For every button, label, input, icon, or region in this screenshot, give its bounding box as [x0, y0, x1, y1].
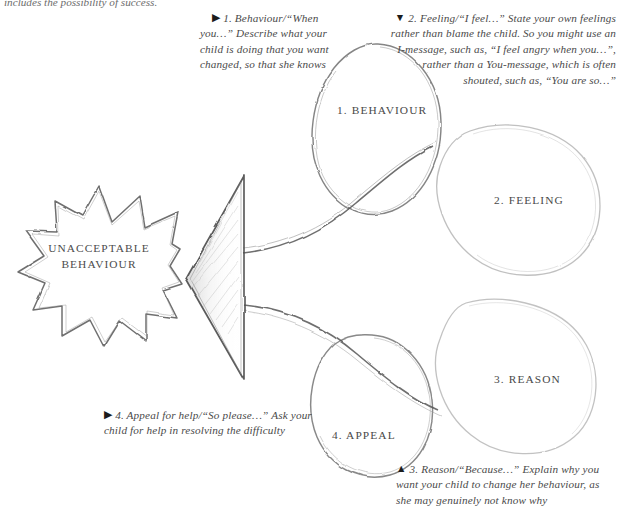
triangle-down-icon: ▼: [395, 10, 406, 25]
note-behaviour: ▶1. Behaviour/“When you…” Describe what …: [200, 11, 352, 73]
triangle-right-icon: ▶: [206, 10, 220, 25]
truncated-header-line: includes the possibility of success.: [4, 0, 234, 8]
core-label: UNACCEPTABLE BEHAVIOUR: [24, 240, 174, 272]
arrow-body-strokes: [243, 142, 441, 416]
note-reason: ▲3. Reason/“Because…” Explain why you wa…: [396, 462, 617, 508]
note-appeal: ▶4. Appeal for help/“So please…” Ask you…: [104, 408, 316, 439]
petal-label-appeal: 4. APPEAL: [332, 429, 396, 441]
note-appeal-heading: 4. Appeal for help/“So please…”: [115, 409, 268, 421]
diagram-page: includes the possibility of success. UNA…: [0, 0, 620, 529]
note-feeling-heading: 2. Feeling/“I feel…”: [408, 12, 505, 24]
triangle-right-icon: ▶: [104, 407, 112, 422]
note-feeling: ▼2. Feeling/“I feel…” State your own fee…: [390, 11, 616, 88]
truncated-header-text: includes the possibility of success.: [4, 0, 234, 8]
petal-label-reason: 3. REASON: [494, 373, 561, 385]
petal-label-behaviour: 1. BEHAVIOUR: [337, 104, 427, 116]
petal-appeal-shape: [311, 335, 433, 477]
note-reason-heading: 3. Reason/“Because…”: [410, 463, 520, 475]
left-pointing-arrow: [186, 176, 244, 380]
petal-label-feeling: 2. FEELING: [494, 194, 564, 206]
core-label-line-2: BEHAVIOUR: [24, 256, 174, 272]
core-label-line-1: UNACCEPTABLE: [24, 240, 174, 256]
triangle-up-icon: ▲: [396, 461, 407, 476]
